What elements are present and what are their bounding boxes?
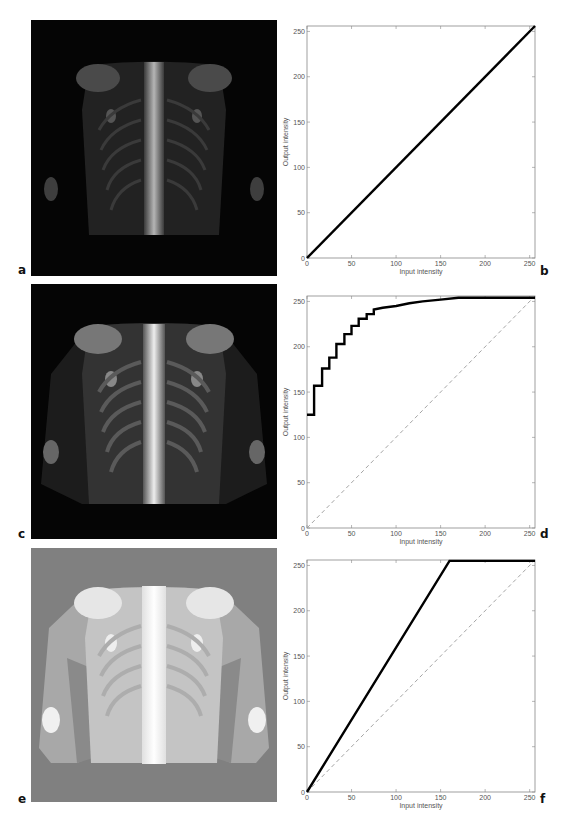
y-tick-label: 100	[293, 434, 305, 441]
x-tick-label: 150	[435, 794, 447, 801]
y-tick-label: 150	[293, 389, 305, 396]
x-tick-label: 150	[435, 530, 447, 537]
scintigram-image-e	[31, 548, 277, 802]
panel-label-e: e	[18, 792, 26, 806]
chart-svg: 050100150200250050100150200250Input inte…	[280, 10, 563, 280]
x-tick-label: 0	[305, 794, 309, 801]
y-axis-label: Output intensity	[282, 117, 290, 166]
x-tick-label: 200	[479, 794, 491, 801]
x-tick-label: 250	[524, 530, 536, 537]
panel-label-a: a	[18, 263, 26, 277]
chart-d: 050100150200250050100150200250Input inte…	[280, 280, 563, 550]
x-tick-label: 150	[435, 260, 447, 267]
scintigram-equalized	[31, 284, 277, 539]
y-tick-label: 50	[297, 209, 305, 216]
x-tick-label: 100	[390, 260, 402, 267]
x-tick-label: 50	[348, 530, 356, 537]
y-tick-label: 250	[293, 298, 305, 305]
y-tick-label: 0	[301, 525, 305, 532]
x-axis-label: Input intensity	[399, 268, 443, 276]
y-tick-label: 200	[293, 73, 305, 80]
x-axis-label: Input intensity	[399, 802, 443, 810]
x-tick-label: 100	[390, 794, 402, 801]
y-tick-label: 0	[301, 789, 305, 796]
y-tick-label: 250	[293, 562, 305, 569]
y-tick-label: 200	[293, 343, 305, 350]
y-axis-label: Output intensity	[282, 651, 290, 700]
y-tick-label: 100	[293, 164, 305, 171]
chart-b: 050100150200250050100150200250Input inte…	[280, 10, 563, 280]
panel-label-c: c	[18, 527, 25, 541]
y-tick-label: 100	[293, 698, 305, 705]
y-tick-label: 150	[293, 119, 305, 126]
x-tick-label: 0	[305, 260, 309, 267]
scintigram-original	[31, 20, 277, 276]
y-tick-label: 50	[297, 479, 305, 486]
y-tick-label: 250	[293, 28, 305, 35]
panel-label-f: f	[540, 792, 545, 806]
panel-label-b: b	[540, 264, 549, 278]
y-tick-label: 0	[301, 255, 305, 262]
y-tick-label: 50	[297, 743, 305, 750]
x-tick-label: 50	[348, 794, 356, 801]
chart-svg: 050100150200250050100150200250Input inte…	[280, 544, 563, 814]
y-tick-label: 150	[293, 653, 305, 660]
x-tick-label: 50	[348, 260, 356, 267]
x-tick-label: 200	[479, 260, 491, 267]
scintigram-image-c	[31, 284, 277, 539]
panel-label-d: d	[540, 527, 549, 541]
x-tick-label: 200	[479, 530, 491, 537]
x-tick-label: 250	[524, 260, 536, 267]
x-tick-label: 100	[390, 530, 402, 537]
x-tick-label: 250	[524, 794, 536, 801]
scintigram-stretched	[31, 548, 277, 802]
scintigram-image-a	[31, 20, 277, 276]
y-tick-label: 200	[293, 607, 305, 614]
y-axis-label: Output intensity	[282, 387, 290, 436]
chart-f: 050100150200250050100150200250Input inte…	[280, 544, 563, 814]
x-tick-label: 0	[305, 530, 309, 537]
chart-svg: 050100150200250050100150200250Input inte…	[280, 280, 563, 550]
